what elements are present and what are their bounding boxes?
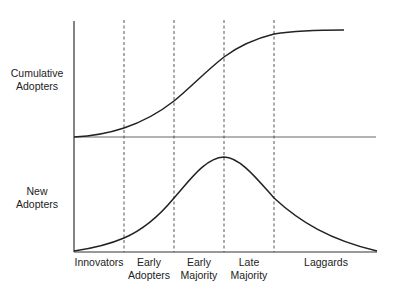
cumulative-adopters-label: Cumulative Adopters	[2, 67, 72, 93]
category-late-majority: Late Majority	[219, 256, 279, 282]
category-dividers	[124, 20, 274, 252]
new-adopters-label: New Adopters	[2, 185, 72, 211]
category-laggards: Laggards	[296, 256, 356, 269]
cumulative-adopters-curve	[74, 30, 344, 137]
adopter-curves-diagram	[0, 0, 397, 292]
new-adopters-curve	[74, 157, 377, 251]
